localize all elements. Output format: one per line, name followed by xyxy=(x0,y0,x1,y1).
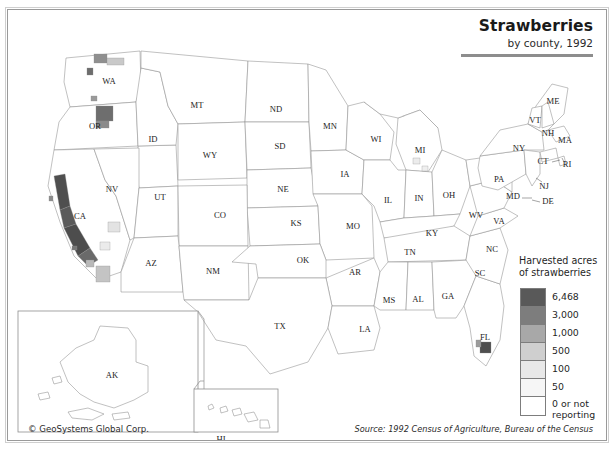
state-label-id: ID xyxy=(148,134,157,144)
state-label-ne: NE xyxy=(277,184,288,194)
state-label-tn: TN xyxy=(404,247,416,257)
state-label-hi: HI xyxy=(216,434,225,440)
state-label-or: OR xyxy=(89,121,101,131)
leader-de xyxy=(532,200,540,202)
state-label-ky: KY xyxy=(426,228,438,238)
legend-scale: 6,4683,0001,000500100500 or not reportin… xyxy=(519,288,605,396)
source-note: Source: 1992 Census of Agriculture, Bure… xyxy=(355,424,594,434)
state-label-mi: MI xyxy=(415,145,426,155)
legend-swatch-1 xyxy=(521,307,545,325)
state-label-ia: IA xyxy=(340,169,350,179)
state-label-ri: RI xyxy=(563,159,572,169)
legend: Harvested acres of strawberries 6,4683,0… xyxy=(519,255,605,396)
state-label-in: IN xyxy=(414,193,424,203)
state-label-az: AZ xyxy=(145,258,156,268)
state-label-nh: NH xyxy=(542,128,554,138)
legend-swatch-column xyxy=(520,288,546,416)
state-label-ms: MS xyxy=(383,295,396,305)
legend-label-1: 3,000 xyxy=(552,306,608,324)
state-label-nj: NJ xyxy=(539,181,549,191)
state-label-nm: NM xyxy=(206,266,220,276)
state-label-nc: NC xyxy=(486,244,498,254)
title-block: Strawberries by county, 1992 xyxy=(333,18,593,57)
legend-label-column: 6,4683,0001,000500100500 or not reportin… xyxy=(552,288,608,416)
state-label-de: DE xyxy=(542,196,553,206)
legend-label-6: 0 or not reporting xyxy=(552,396,608,416)
state-label-oh: OH xyxy=(443,190,455,200)
title-rule xyxy=(461,54,593,57)
state-label-sd: SD xyxy=(275,141,286,151)
state-label-ma: MA xyxy=(558,135,573,145)
state-label-ks: KS xyxy=(291,218,302,228)
state-label-sc: SC xyxy=(475,268,486,278)
legend-swatch-3 xyxy=(521,343,545,361)
state-label-va: VA xyxy=(493,216,505,226)
state-label-il: IL xyxy=(384,195,392,205)
legend-swatch-4 xyxy=(521,361,545,379)
legend-swatch-0 xyxy=(521,289,545,307)
legend-swatch-2 xyxy=(521,325,545,343)
footer: © GeoSystems Global Corp. Source: 1992 C… xyxy=(28,424,593,434)
map-subtitle: by county, 1992 xyxy=(333,38,593,50)
state-label-me: ME xyxy=(547,96,560,106)
state-label-co: CO xyxy=(214,210,226,220)
state-label-ar: AR xyxy=(349,267,361,277)
state-label-la: LA xyxy=(359,324,371,334)
state-label-al: AL xyxy=(412,294,423,304)
state-label-tx: TX xyxy=(274,321,286,331)
legend-label-4: 100 xyxy=(552,360,608,378)
state-label-mn: MN xyxy=(323,121,338,131)
state-label-wa: WA xyxy=(102,76,116,86)
state-label-ut: UT xyxy=(154,192,166,202)
copyright-notice: © GeoSystems Global Corp. xyxy=(28,424,149,434)
state-label-pa: PA xyxy=(494,174,505,184)
state-label-wi: WI xyxy=(371,134,382,144)
page-title: Strawberries xyxy=(333,18,593,35)
state-label-vt: VT xyxy=(529,115,541,125)
map-graphic: WAORIDMTWYNDSDNEMNIANVUTCOKSMOCAAZNMOKAR… xyxy=(8,10,606,440)
legend-heading: Harvested acres of strawberries xyxy=(519,255,605,280)
state-label-mo: MO xyxy=(346,221,360,231)
state-label-wy: WY xyxy=(203,150,217,160)
legend-swatch-5 xyxy=(521,379,545,397)
state-label-ny: NY xyxy=(513,143,525,153)
state-label-ga: GA xyxy=(442,291,455,301)
strawberries-county-map: WAORIDMTWYNDSDNEMNIANVUTCOKSMOCAAZNMOKAR… xyxy=(0,0,615,459)
state-label-wv: WV xyxy=(469,210,484,220)
state-label-md: MD xyxy=(506,191,520,201)
state-label-mt: MT xyxy=(191,100,205,110)
legend-label-0: 6,468 xyxy=(552,288,608,306)
legend-label-5: 50 xyxy=(552,378,608,396)
state-label-ca: CA xyxy=(74,211,87,221)
state-label-nv: NV xyxy=(106,184,119,194)
state-label-nd: ND xyxy=(270,104,282,114)
legend-label-2: 1,000 xyxy=(552,324,608,342)
state-label-fl: FL xyxy=(480,332,490,342)
legend-swatch-6 xyxy=(521,397,545,415)
state-label-ok: OK xyxy=(297,255,310,265)
legend-label-3: 500 xyxy=(552,342,608,360)
state-label-ct: CT xyxy=(538,156,550,166)
state-label-ak: AK xyxy=(106,370,119,380)
